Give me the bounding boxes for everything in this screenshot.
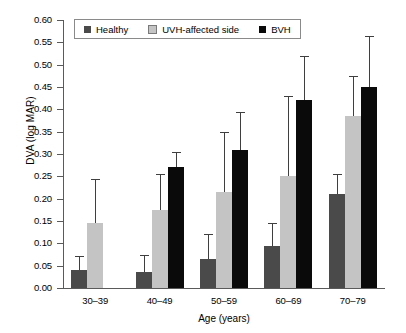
plot-area bbox=[63, 20, 385, 288]
bar bbox=[329, 194, 345, 288]
y-axis-tick-label: 0.00 bbox=[12, 283, 52, 293]
bar bbox=[216, 192, 232, 288]
error-bar bbox=[337, 174, 338, 194]
error-bar bbox=[95, 179, 96, 224]
y-axis-tick-label: 0.60 bbox=[12, 15, 52, 25]
error-bar bbox=[369, 36, 370, 87]
error-bar-cap bbox=[236, 112, 245, 113]
bar bbox=[136, 272, 152, 288]
y-axis-tick-label: 0.20 bbox=[12, 194, 52, 204]
legend-swatch-icon bbox=[148, 25, 157, 34]
chart-legend: HealthyUVH-affected sideBVH bbox=[74, 19, 301, 39]
x-axis-tick-label: 30–39 bbox=[60, 295, 130, 306]
error-bar-cap bbox=[333, 174, 342, 175]
error-bar bbox=[353, 76, 354, 116]
error-bar bbox=[176, 152, 177, 168]
error-bar bbox=[224, 132, 225, 192]
y-axis-tick bbox=[57, 288, 63, 289]
x-axis-title: Age (years) bbox=[63, 313, 385, 324]
y-axis-tick-label: 0.40 bbox=[12, 104, 52, 114]
y-axis-tick-label: 0.55 bbox=[12, 37, 52, 47]
legend-item: BVH bbox=[259, 24, 291, 35]
error-bar bbox=[208, 234, 209, 259]
y-axis-tick-label: 0.05 bbox=[12, 261, 52, 271]
y-axis-tick-label: 0.35 bbox=[12, 127, 52, 137]
error-bar-cap bbox=[140, 255, 149, 256]
error-bar-cap bbox=[75, 256, 84, 257]
bar bbox=[296, 100, 312, 288]
error-bar bbox=[79, 256, 80, 270]
legend-swatch-icon bbox=[259, 26, 266, 33]
error-bar bbox=[304, 56, 305, 101]
error-bar-cap bbox=[284, 96, 293, 97]
legend-label: Healthy bbox=[96, 24, 128, 35]
error-bar-cap bbox=[220, 132, 229, 133]
legend-item: Healthy bbox=[84, 24, 128, 35]
y-axis-tick-label: 0.30 bbox=[12, 149, 52, 159]
bar bbox=[152, 210, 168, 288]
y-axis-tick-label: 0.15 bbox=[12, 216, 52, 226]
error-bar bbox=[160, 174, 161, 210]
bar bbox=[361, 87, 377, 288]
error-bar-cap bbox=[172, 152, 181, 153]
error-bar bbox=[144, 255, 145, 273]
error-bar-cap bbox=[365, 36, 374, 37]
error-bar-cap bbox=[300, 56, 309, 57]
error-bar-cap bbox=[156, 174, 165, 175]
y-axis-tick-label: 0.50 bbox=[12, 60, 52, 70]
y-axis-tick-label: 0.10 bbox=[12, 238, 52, 248]
error-bar-cap bbox=[91, 179, 100, 180]
x-axis-tick-label: 70–79 bbox=[318, 295, 388, 306]
error-bar-cap bbox=[349, 76, 358, 77]
legend-label: BVH bbox=[271, 24, 291, 35]
bar bbox=[87, 223, 103, 288]
bar bbox=[264, 246, 280, 288]
legend-label: UVH-affected side bbox=[162, 24, 239, 35]
x-axis-line bbox=[63, 288, 385, 289]
x-axis-tick-label: 40–49 bbox=[125, 295, 195, 306]
bar bbox=[200, 259, 216, 288]
legend-item: UVH-affected side bbox=[148, 24, 239, 35]
error-bar bbox=[272, 223, 273, 246]
error-bar bbox=[240, 112, 241, 150]
error-bar-cap bbox=[268, 223, 277, 224]
error-bar bbox=[288, 96, 289, 176]
x-axis-tick-label: 50–59 bbox=[189, 295, 259, 306]
legend-swatch-icon bbox=[84, 26, 91, 33]
bar bbox=[232, 150, 248, 288]
bar bbox=[71, 270, 87, 288]
dva-age-bar-chart: DVA (log MAR) 0.000.050.100.150.200.250.… bbox=[0, 0, 406, 333]
y-axis-tick-label: 0.45 bbox=[12, 82, 52, 92]
error-bar-cap bbox=[204, 234, 213, 235]
x-axis-tick-label: 60–69 bbox=[253, 295, 323, 306]
bar bbox=[280, 176, 296, 288]
bar bbox=[345, 116, 361, 288]
y-axis-tick-label: 0.25 bbox=[12, 171, 52, 181]
bar bbox=[168, 167, 184, 288]
